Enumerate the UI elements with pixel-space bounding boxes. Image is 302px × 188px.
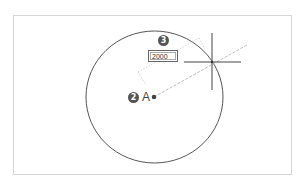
radius-input-value[interactable]: 2000 <box>150 52 176 60</box>
radius-input-field[interactable]: 2000 <box>148 50 178 62</box>
drawing-canvas[interactable] <box>0 0 302 188</box>
step-marker-3: 3 <box>158 35 169 46</box>
dimension-extension-line-start <box>138 72 146 85</box>
center-point-label: A <box>142 91 150 103</box>
step-marker-2: 2 <box>128 92 139 103</box>
center-point-dot[interactable] <box>152 95 157 100</box>
